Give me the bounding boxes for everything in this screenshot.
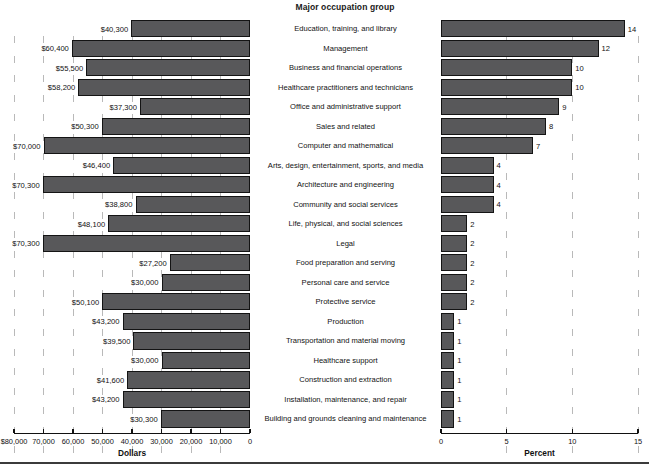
axis-tick: [220, 429, 221, 433]
bar-dollars[interactable]: [127, 371, 250, 388]
bar-value-label-dollars: $70,300: [12, 180, 39, 189]
bar-dollars[interactable]: [162, 352, 251, 369]
bar-percent[interactable]: [441, 371, 454, 388]
axis-tick: [190, 429, 191, 433]
left-bar-row: $70,300: [14, 176, 250, 193]
bar-dollars[interactable]: [102, 118, 250, 135]
axis-line: [441, 433, 638, 434]
category-label: Production: [250, 313, 441, 330]
axis-tick: [72, 429, 73, 433]
left-bar-row: $43,200: [14, 313, 250, 330]
bar-dollars[interactable]: [162, 274, 251, 291]
left-bar-row: $30,300: [14, 410, 250, 427]
bar-percent[interactable]: [441, 20, 625, 37]
bar-value-label-dollars: $70,000: [13, 141, 40, 150]
bar-percent[interactable]: [441, 410, 454, 427]
right-bar-row: 4: [441, 157, 638, 174]
bar-dollars[interactable]: [72, 40, 250, 57]
bar-percent[interactable]: [441, 274, 467, 291]
bar-percent[interactable]: [441, 176, 494, 193]
bar-dollars[interactable]: [78, 79, 250, 96]
bar-dollars[interactable]: [43, 235, 250, 252]
category-label: Healthcare support: [250, 352, 441, 369]
bar-percent[interactable]: [441, 332, 454, 349]
bar-value-label-percent: 2: [470, 278, 474, 287]
left-bar-row: $50,300: [14, 118, 250, 135]
bar-value-label-percent: 10: [575, 83, 583, 92]
bar-value-label-dollars: $43,200: [92, 317, 119, 326]
bar-value-label-percent: 4: [497, 161, 501, 170]
category-label: Construction and extraction: [250, 371, 441, 388]
bar-value-label-dollars: $37,300: [110, 102, 137, 111]
bar-dollars[interactable]: [131, 20, 250, 37]
bar-dollars[interactable]: [123, 313, 250, 330]
category-label: Arts, design, entertainment, sports, and…: [250, 157, 441, 174]
bar-percent[interactable]: [441, 40, 599, 57]
axis-tick-label: 10: [542, 437, 602, 446]
bar-percent[interactable]: [441, 118, 546, 135]
footer-divider: [0, 462, 649, 464]
bar-percent[interactable]: [441, 391, 454, 408]
category-label: Food preparation and serving: [250, 254, 441, 271]
axis-tick: [637, 429, 638, 433]
left-bar-row: $37,300: [14, 98, 250, 115]
bar-dollars[interactable]: [113, 157, 250, 174]
bar-percent[interactable]: [441, 293, 467, 310]
bar-value-label-dollars: $41,600: [97, 375, 124, 384]
bar-percent[interactable]: [441, 254, 467, 271]
bar-percent[interactable]: [441, 137, 533, 154]
left-bar-row: $70,000: [14, 137, 250, 154]
bar-dollars[interactable]: [136, 196, 250, 213]
axis-tick-label: 5: [477, 437, 537, 446]
bar-dollars[interactable]: [140, 98, 250, 115]
right-plot-area: 1412101098744422222111111: [441, 20, 638, 430]
bar-dollars[interactable]: [44, 137, 251, 154]
bar-percent[interactable]: [441, 235, 467, 252]
bar-dollars[interactable]: [123, 391, 250, 408]
bar-dollars[interactable]: [102, 293, 250, 310]
axis-tick-label: 0: [411, 437, 471, 446]
category-label: Personal care and service: [250, 274, 441, 291]
bar-percent[interactable]: [441, 157, 494, 174]
right-bar-row: 2: [441, 235, 638, 252]
right-bar-row: 1: [441, 313, 638, 330]
bar-percent[interactable]: [441, 79, 572, 96]
bar-percent[interactable]: [441, 215, 467, 232]
left-axis-title: Dollars: [14, 448, 250, 458]
right-bar-row: 2: [441, 293, 638, 310]
category-label: Community and social services: [250, 196, 441, 213]
axis-tick: [131, 429, 132, 433]
category-label: Protective service: [250, 293, 441, 310]
right-bar-row: 2: [441, 215, 638, 232]
right-bar-row: 1: [441, 352, 638, 369]
axis-tick: [102, 429, 103, 433]
bar-percent[interactable]: [441, 59, 572, 76]
left-bar-row: $60,400: [14, 40, 250, 57]
bar-value-label-percent: 14: [628, 24, 636, 33]
right-bar-row: 10: [441, 59, 638, 76]
bar-value-label-dollars: $58,200: [48, 83, 75, 92]
left-bar-row: $70,300: [14, 235, 250, 252]
right-axis-title: Percent: [441, 448, 638, 458]
bar-percent[interactable]: [441, 98, 559, 115]
category-label: Healthcare practitioners and technicians: [250, 79, 441, 96]
bar-dollars[interactable]: [133, 332, 250, 349]
category-label: Office and administrative support: [250, 98, 441, 115]
left-bar-row: $40,300: [14, 20, 250, 37]
right-bar-row: 7: [441, 137, 638, 154]
dual-bar-chart: Major occupation group $40,300$60,400$55…: [0, 0, 649, 470]
bar-value-label-dollars: $30,000: [131, 356, 158, 365]
category-label: Business and financial operations: [250, 59, 441, 76]
bar-dollars[interactable]: [161, 410, 250, 427]
bar-percent[interactable]: [441, 196, 494, 213]
bar-value-label-percent: 10: [575, 63, 583, 72]
category-label: Transportation and material moving: [250, 332, 441, 349]
bar-percent[interactable]: [441, 352, 454, 369]
bar-percent[interactable]: [441, 313, 454, 330]
bar-dollars[interactable]: [170, 254, 250, 271]
bar-dollars[interactable]: [43, 176, 250, 193]
bar-value-label-percent: 1: [457, 395, 461, 404]
bar-value-label-dollars: $30,000: [131, 278, 158, 287]
bar-dollars[interactable]: [86, 59, 250, 76]
bar-dollars[interactable]: [108, 215, 250, 232]
